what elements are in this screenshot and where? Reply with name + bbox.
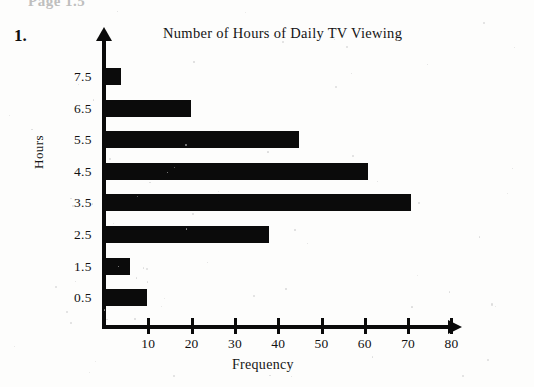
noise-speck: [491, 303, 493, 305]
noise-speck: [72, 205, 74, 207]
noise-speck: [269, 375, 270, 376]
noise-speck: [377, 181, 378, 182]
noise-speck: [514, 47, 515, 48]
x-tick-mark: [234, 318, 237, 334]
y-axis-label: Hours: [31, 112, 47, 192]
noise-speck: [245, 12, 246, 13]
noise-speck: [462, 375, 464, 377]
noise-speck: [164, 298, 165, 299]
x-tick-label: 20: [177, 336, 207, 352]
noise-speck: [285, 288, 286, 289]
noise-speck: [479, 236, 481, 238]
noise-speck: [483, 22, 485, 24]
noise-speck: [294, 229, 295, 230]
noise-speck: [146, 268, 148, 270]
x-axis-label: Frequency: [232, 357, 294, 373]
bar-chart-plot: Hours Frequency 7.56.55.54.53.52.51.50.5…: [0, 0, 534, 387]
x-tick-label: 10: [133, 336, 163, 352]
bar: [104, 258, 130, 275]
noise-speck: [106, 319, 107, 320]
noise-speck: [487, 359, 489, 361]
noise-speck: [352, 155, 354, 157]
bar: [104, 194, 411, 211]
bar: [104, 289, 147, 306]
x-tick-mark: [147, 318, 150, 334]
noise-speck: [93, 99, 95, 101]
x-tick-mark: [321, 318, 324, 334]
noise-speck: [507, 193, 508, 194]
noise-speck: [161, 306, 162, 307]
bar: [104, 131, 299, 148]
bar: [104, 163, 368, 180]
noise-speck: [143, 267, 145, 269]
x-tick-mark: [364, 318, 367, 334]
y-tick-label: 4.5: [48, 164, 92, 180]
noise-speck: [78, 84, 79, 85]
y-tick-label: 5.5: [48, 132, 92, 148]
noise-speck: [282, 41, 284, 43]
noise-speck: [173, 375, 175, 377]
noise-speck: [113, 223, 114, 224]
noise-speck: [512, 168, 513, 169]
noise-speck: [411, 306, 413, 308]
noise-speck: [66, 311, 68, 313]
noise-speck: [273, 35, 274, 36]
noise-speck: [134, 318, 135, 319]
x-tick-mark: [277, 318, 280, 334]
y-tick-label: 1.5: [48, 259, 92, 275]
x-tick-label: 40: [263, 336, 293, 352]
noise-speck: [147, 281, 148, 282]
noise-speck: [55, 286, 57, 288]
noise-speck: [149, 182, 151, 184]
noise-speck: [427, 64, 428, 65]
x-tick-label: 80: [436, 336, 466, 352]
noise-speck: [75, 281, 76, 282]
y-tick-label: 2.5: [48, 227, 92, 243]
noise-speck: [186, 228, 187, 229]
bar: [104, 100, 191, 117]
noise-speck: [207, 262, 208, 263]
noise-speck: [335, 86, 337, 88]
x-tick-label: 50: [307, 336, 337, 352]
noise-speck: [92, 203, 93, 204]
x-tick-label: 60: [350, 336, 380, 352]
x-tick-label: 30: [220, 336, 250, 352]
noise-speck: [137, 196, 138, 197]
noise-speck: [495, 306, 496, 307]
noise-speck: [14, 346, 15, 347]
noise-speck: [89, 372, 90, 373]
noise-speck: [9, 115, 10, 116]
y-tick-label: 6.5: [48, 101, 92, 117]
x-tick-mark: [450, 318, 453, 334]
y-tick-label: 7.5: [48, 69, 92, 85]
x-tick-label: 70: [393, 336, 423, 352]
noise-speck: [109, 158, 111, 160]
noise-speck: [192, 213, 194, 215]
noise-speck: [218, 191, 219, 192]
noise-speck: [307, 243, 308, 244]
noise-speck: [117, 11, 118, 12]
noise-speck: [136, 277, 138, 279]
noise-speck: [417, 275, 418, 276]
noise-speck: [70, 322, 72, 324]
noise-speck: [294, 31, 295, 32]
x-tick-mark: [407, 318, 410, 334]
x-tick-mark: [191, 318, 194, 334]
noise-speck: [372, 356, 373, 357]
noise-speck: [253, 295, 255, 297]
noise-speck: [334, 39, 335, 40]
y-tick-label: 0.5: [48, 290, 92, 306]
noise-speck: [291, 376, 292, 377]
noise-speck: [174, 167, 175, 168]
noise-speck: [449, 291, 450, 292]
noise-speck: [193, 61, 194, 62]
noise-speck: [95, 361, 96, 362]
noise-speck: [267, 151, 269, 153]
noise-speck: [346, 46, 348, 48]
bar: [104, 68, 121, 85]
worksheet-page: Page 1.5 1. Number of Hours of Daily TV …: [0, 0, 534, 387]
noise-speck: [418, 202, 420, 204]
noise-speck: [351, 73, 352, 74]
